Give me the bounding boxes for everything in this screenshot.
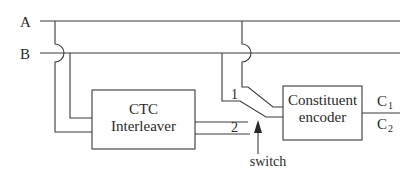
switch-label: switch [250, 154, 287, 169]
ctc-interleaver-block: CTC Interleaver [92, 90, 195, 149]
wire-b-to-interleaver [70, 53, 92, 118]
encoder-label-line2: encoder [299, 109, 346, 125]
wire-a-to-interleaver [55, 21, 92, 132]
constituent-encoder-block: Constituent encoder [283, 86, 362, 140]
output-label-c1: C 1 [377, 93, 393, 111]
svg-text:C: C [377, 116, 387, 132]
input-label-a: A [20, 14, 31, 30]
interleaver-label-line1: CTC [129, 101, 158, 117]
ctc-encoder-diagram: A B CTC Interleaver 1 2 switch Constitue… [0, 0, 417, 174]
input-label-b: B [20, 46, 30, 62]
output-label-c2: C 2 [377, 116, 393, 134]
svg-text:2: 2 [388, 123, 393, 134]
encoder-label-line1: Constituent [288, 92, 358, 108]
interleaver-label-line2: Interleaver [111, 118, 176, 134]
wire-a-to-encoder [242, 21, 283, 107]
svg-text:1: 1 [388, 100, 393, 111]
switch-position-1: 1 [231, 87, 238, 102]
svg-text:C: C [377, 93, 387, 109]
switch-position-2: 2 [231, 120, 238, 135]
switch-arrow-icon [254, 120, 262, 154]
